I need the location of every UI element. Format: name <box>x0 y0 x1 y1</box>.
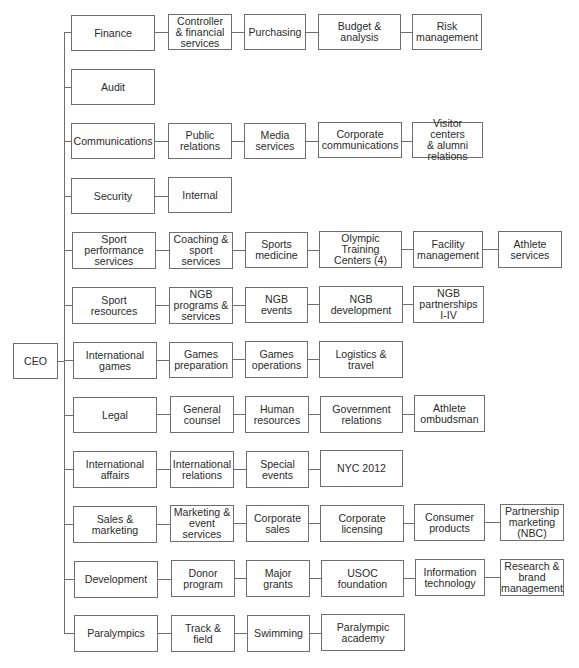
dept-label: Sport performance services <box>84 234 143 267</box>
branch-connector <box>64 360 73 361</box>
unit-facility-management: Facility management <box>413 231 483 268</box>
unit-public-relations: Public relations <box>168 123 232 159</box>
unit-label: International relations <box>173 459 231 481</box>
dept-label: International games <box>86 350 144 372</box>
unit-label: Track & field <box>174 623 232 645</box>
connector <box>308 250 319 251</box>
unit-label: Corporate sales <box>254 513 301 535</box>
unit-label: Donor program <box>183 568 222 590</box>
connector <box>404 578 415 579</box>
unit-media-services: Media services <box>244 123 306 159</box>
unit-label: Special events <box>260 459 295 481</box>
figure-caption-cutoff <box>10 660 570 668</box>
connector <box>485 577 500 578</box>
dept-label: Communications <box>74 136 153 147</box>
unit-label: Corporate communications <box>322 129 399 151</box>
unit-human-resources: Human resources <box>245 396 309 433</box>
unit-label: NGB programs & services <box>174 289 229 322</box>
unit-label: NGB partnerships I-IV <box>419 288 477 321</box>
unit-ngb-development: NGB development <box>319 286 403 323</box>
branch-connector <box>64 524 73 525</box>
unit-corporate-licensing: Corporate licensing <box>320 505 404 542</box>
unit-label: Information technology <box>424 567 477 589</box>
branch-connector <box>64 250 72 251</box>
unit-corporate-communications: Corporate communications <box>318 122 402 158</box>
unit-label: Government relations <box>332 404 390 426</box>
unit-information-technology: Information technology <box>415 559 485 596</box>
unit-usoc-foundation: USOC foundation <box>321 560 404 597</box>
connector <box>235 633 247 634</box>
unit-label: Human resources <box>254 404 301 426</box>
dept-legal: Legal <box>73 397 157 433</box>
connector <box>309 523 320 524</box>
unit-label: Games operations <box>252 349 301 371</box>
unit-coaching: Coaching & sport services <box>169 232 233 269</box>
connector <box>158 579 171 580</box>
unit-donor-program: Donor program <box>171 560 235 597</box>
unit-olympic-training-centers: Olympic Training Centers (4) <box>319 231 402 268</box>
unit-international-relations: International relations <box>170 451 234 488</box>
unit-ngb-programs: NGB programs & services <box>169 287 233 324</box>
ceo-box: CEO <box>13 343 58 379</box>
unit-sports-medicine: Sports medicine <box>245 232 308 268</box>
dept-audit: Audit <box>71 69 155 105</box>
unit-ngb-partnerships: NGB partnerships I-IV <box>413 286 484 323</box>
connector <box>157 524 170 525</box>
dept-sales-marketing: Sales & marketing <box>73 506 157 543</box>
unit-label: Partnership marketing (NBC) <box>505 506 559 539</box>
unit-label: Facility management <box>417 239 479 261</box>
branch-connector <box>64 469 73 470</box>
unit-government-relations: Government relations <box>320 396 403 433</box>
connector <box>310 578 321 579</box>
unit-track-field: Track & field <box>171 615 235 652</box>
unit-consumer-products: Consumer products <box>414 504 485 541</box>
unit-label: NGB events <box>261 294 292 316</box>
unit-label: Internal <box>182 190 217 201</box>
unit-label: General counsel <box>183 404 221 426</box>
dept-communications: Communications <box>71 123 155 159</box>
dept-international-games: International games <box>73 342 157 379</box>
connector <box>155 32 168 33</box>
unit-label: Coaching & sport services <box>174 234 229 267</box>
unit-risk: Risk management <box>412 14 482 50</box>
unit-label: Athlete services <box>511 239 550 261</box>
connector <box>157 414 170 415</box>
connector <box>232 32 244 33</box>
unit-label: Risk management <box>416 21 478 43</box>
connector <box>155 141 168 142</box>
unit-label: Athlete ombudsman <box>420 403 478 425</box>
unit-partnership-marketing: Partnership marketing (NBC) <box>500 504 564 541</box>
connector <box>402 249 413 250</box>
branch-connector <box>64 141 71 142</box>
dept-label: Sport resources <box>91 295 138 317</box>
dept-label: Sales & marketing <box>92 514 139 536</box>
connector <box>233 359 245 360</box>
dept-sport-performance: Sport performance services <box>72 232 156 269</box>
unit-internal: Internal <box>168 177 232 213</box>
connector <box>232 141 244 142</box>
connector <box>155 196 168 197</box>
branch-connector <box>64 305 72 306</box>
dept-security: Security <box>71 178 155 214</box>
unit-athlete-ombudsman: Athlete ombudsman <box>414 395 485 432</box>
dept-label: Security <box>94 191 132 202</box>
unit-swimming: Swimming <box>247 615 310 652</box>
unit-label: USOC foundation <box>338 568 387 590</box>
branch-connector <box>64 633 74 634</box>
unit-budget: Budget & analysis <box>318 14 401 50</box>
unit-label: Sports medicine <box>255 239 297 261</box>
branch-connector <box>64 87 71 88</box>
branch-connector <box>64 415 73 416</box>
unit-label: Consumer products <box>425 512 474 534</box>
connector <box>158 633 171 634</box>
connector <box>485 522 500 523</box>
unit-label: Olympic Training Centers (4) <box>334 233 387 266</box>
branch-connector <box>64 196 71 197</box>
unit-label: Research & brand management <box>501 561 563 594</box>
unit-nyc-2012: NYC 2012 <box>320 450 403 487</box>
unit-label: Swimming <box>254 628 303 639</box>
unit-marketing-event-services: Marketing & event services <box>170 505 234 542</box>
dept-label: Audit <box>101 82 125 93</box>
unit-label: Visitor centers & alumni relations <box>415 118 480 162</box>
dept-paralympics: Paralympics <box>74 615 158 652</box>
